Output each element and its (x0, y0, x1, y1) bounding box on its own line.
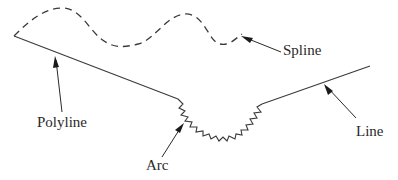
line-shape (262, 66, 370, 104)
arrowhead-icon (324, 84, 333, 95)
spline-leader (241, 36, 281, 52)
polyline-leader (53, 56, 62, 112)
arc-label: Arc (146, 157, 169, 173)
cad-entity-diagram: Spline Polyline Arc Line (0, 0, 398, 180)
polyline-shape (14, 36, 178, 99)
line-label: Line (356, 123, 384, 139)
spline-curve (14, 8, 242, 46)
spline-label: Spline (283, 42, 322, 58)
arc-zigzag (178, 99, 262, 141)
arrowhead-icon (53, 56, 59, 68)
arc-leader (162, 123, 184, 157)
arrowhead-icon (175, 123, 184, 133)
polyline-label: Polyline (37, 114, 87, 130)
arrowhead-icon (241, 36, 253, 43)
line-leader (324, 84, 356, 118)
